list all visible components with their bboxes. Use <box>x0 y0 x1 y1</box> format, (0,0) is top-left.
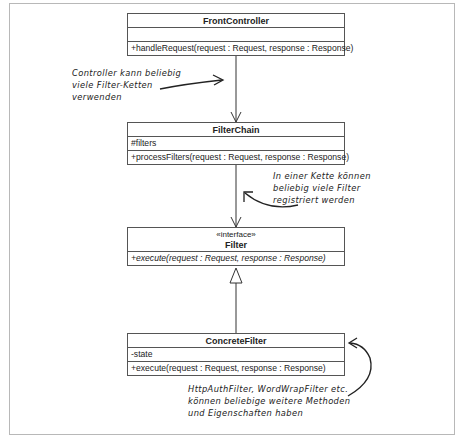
note-line: viele Filter-Ketten <box>72 79 181 91</box>
class-name: FrontController <box>128 14 344 28</box>
note-line: können beliebige weitere Methoden <box>188 395 350 407</box>
note-line: verwenden <box>72 91 181 103</box>
note-arrow-concrete <box>348 343 371 396</box>
note-line: In einer Kette können <box>273 170 371 182</box>
attributes-section <box>128 28 344 42</box>
note-line: registriert werden <box>273 194 371 206</box>
operation: +handleRequest(request : Request, respon… <box>128 42 344 55</box>
note-line: Controller kann beliebig <box>72 67 181 79</box>
class-filter-chain: FilterChain #filters +processFilters(req… <box>127 122 345 165</box>
attribute: -state <box>128 348 344 362</box>
note-line: und Eigenschaften haben <box>188 407 350 419</box>
stereotype: «interface» <box>128 230 344 240</box>
class-name: Filter <box>225 240 247 250</box>
operation: +execute(request : Request, response : R… <box>128 362 344 375</box>
class-name: ConcreteFilter <box>128 334 344 348</box>
interface-header: «interface» Filter <box>128 228 344 252</box>
note-chain: In einer Kette können beliebig viele Fil… <box>273 170 371 206</box>
operation: +processFilters(request : Request, respo… <box>128 151 344 164</box>
class-front-controller: FrontController +handleRequest(request :… <box>127 13 345 56</box>
hollow-triangle-arrowhead <box>230 268 242 283</box>
operation: +execute(request : Request, response : R… <box>128 252 344 265</box>
note-line: HttpAuthFilter, WordWrapFilter etc. <box>188 383 350 395</box>
class-name: FilterChain <box>128 123 344 137</box>
class-concrete-filter: ConcreteFilter -state +execute(request :… <box>127 333 345 376</box>
attribute: #filters <box>128 137 344 151</box>
note-concrete: HttpAuthFilter, WordWrapFilter etc. könn… <box>188 383 350 419</box>
note-line: beliebig viele Filter <box>273 182 371 194</box>
note-controller: Controller kann beliebig viele Filter-Ke… <box>72 67 181 103</box>
interface-filter: «interface» Filter +execute(request : Re… <box>127 227 345 266</box>
